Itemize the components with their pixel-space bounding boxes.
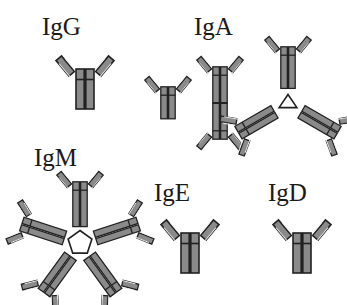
antibody-diagram-ige: [160, 212, 220, 274]
isotype-label-igd: IgD: [268, 180, 307, 205]
fab-arm-right: [19, 274, 40, 296]
antibody-diagram-igm: [12, 180, 148, 305]
j-chain-hub: [279, 95, 297, 108]
isotype-label-iga: IgA: [194, 14, 233, 39]
fc-stem-left: [181, 233, 189, 273]
antibody-diagram-iga: [140, 48, 347, 160]
antibody-unit: [56, 56, 114, 109]
fc-stem-right: [191, 233, 199, 273]
antibody-unit-2: [88, 199, 155, 260]
fab-arm-left: [119, 274, 140, 296]
fc-stem-left: [76, 69, 84, 109]
igg-monomer-svg: [55, 48, 115, 110]
iga-monomer: [145, 76, 191, 118]
igm-pentamer: [5, 171, 156, 305]
fc-stem-right: [169, 87, 176, 119]
antibody-unit-5: [5, 199, 72, 260]
antibody-unit-2: [290, 92, 347, 158]
antibody-unit-upper: [197, 56, 243, 102]
isotype-label-igm: IgM: [34, 145, 77, 170]
igm-pentamer-svg: [12, 180, 148, 305]
fc-stem-right: [221, 67, 228, 103]
fab-arm-right: [321, 137, 342, 158]
antibody-diagram-igd: [272, 212, 332, 274]
antibody-unit-1: [265, 36, 311, 88]
fc-stem-left: [213, 67, 220, 103]
fc-stem-left: [293, 233, 301, 273]
iga-svg: [140, 48, 347, 160]
fc-stem-right: [303, 233, 311, 273]
fc-stem-left: [161, 87, 168, 119]
iga-dimer: [197, 56, 243, 149]
fc-stem-left: [213, 103, 220, 139]
antibody-unit: [273, 220, 331, 273]
igd-monomer-svg: [272, 212, 332, 274]
isotype-label-igg: IgG: [42, 14, 81, 39]
antibody-unit-1: [57, 171, 103, 226]
j-chain-hub: [68, 231, 92, 254]
antibody-diagram-igg: [55, 48, 115, 110]
ige-monomer-svg: [160, 212, 220, 274]
isotype-label-ige: IgE: [154, 180, 190, 205]
antibody-unit-3: [218, 92, 286, 158]
fc-stem-right: [86, 69, 94, 109]
antibody-isotype-figure: IgG IgA: [0, 0, 347, 305]
fc-stem-left: [73, 182, 80, 227]
fc-stem-left: [281, 47, 288, 89]
fc-stem-right: [289, 47, 296, 89]
antibody-unit: [161, 220, 219, 273]
fc-stem-right: [81, 182, 88, 227]
